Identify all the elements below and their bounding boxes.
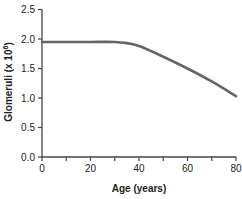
x-tick-label: 0	[39, 163, 45, 174]
x-tick-label: 20	[85, 163, 97, 174]
y-axis-title-main: Glomeruli (x 10	[3, 49, 14, 122]
y-tick-label: 1.5	[21, 63, 35, 74]
y-axis: 0.00.51.01.52.02.5	[21, 4, 42, 163]
line-chart: 0.00.51.01.52.02.5 020406080 Age (years)…	[0, 0, 242, 199]
data-series	[42, 42, 236, 96]
x-tick-label: 60	[182, 163, 194, 174]
x-axis: 020406080	[39, 157, 242, 174]
y-tick-label: 1.0	[21, 93, 35, 104]
y-tick-label: 2.5	[21, 4, 35, 15]
x-tick-label: 80	[230, 163, 242, 174]
y-tick-label: 0.5	[21, 122, 35, 133]
y-tick-label: 0.0	[21, 152, 35, 163]
y-axis-title: Glomeruli (x 106)	[2, 42, 14, 122]
y-tick-label: 2.0	[21, 34, 35, 45]
series-line	[42, 42, 236, 96]
x-tick-label: 40	[133, 163, 145, 174]
x-axis-title: Age (years)	[112, 183, 166, 194]
y-axis-title-end: )	[3, 42, 14, 45]
